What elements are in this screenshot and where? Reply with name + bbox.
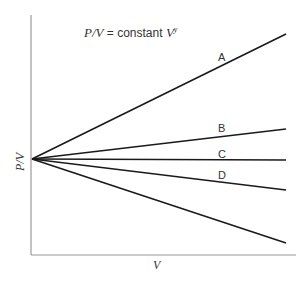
chart-title: P/V = constant Vy <box>83 25 178 40</box>
label-a: A <box>218 51 226 63</box>
x-axis-label: V <box>153 258 162 272</box>
line-b <box>32 129 286 159</box>
line-e <box>32 159 286 243</box>
label-b: B <box>218 122 225 134</box>
title-eq: = constant <box>104 26 166 40</box>
line-a <box>32 34 286 159</box>
label-d: D <box>218 169 226 181</box>
line-d <box>32 159 286 190</box>
label-c: C <box>218 148 226 160</box>
y-axis-label: P/V <box>13 151 27 172</box>
title-exponent: y <box>173 25 178 34</box>
title-lhs: P/V <box>83 25 106 40</box>
pv-diagram: A B C D P/V = constant Vy V P/V <box>0 0 308 282</box>
line-c <box>32 159 286 160</box>
